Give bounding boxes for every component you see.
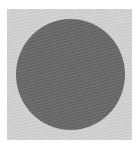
gray-circle-shape (16, 19, 125, 130)
canvas (0, 0, 139, 146)
